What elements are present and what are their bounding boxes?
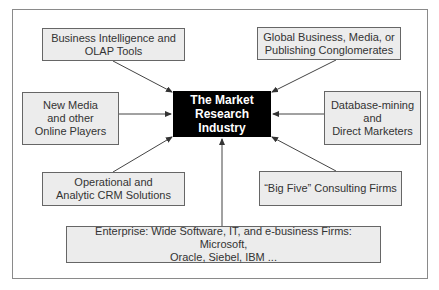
center-label: The Market Research Industry [190,93,253,135]
node-global-conglomerates: Global Business, Media, or Publishing Co… [257,27,401,60]
node-enterprise-software: Enterprise: Wide Software, IT, and e-bus… [66,226,381,263]
arrow-global [272,60,336,92]
node-label: “Big Five” Consulting Firms [264,182,397,195]
node-market-research-industry: The Market Research Industry [173,91,271,137]
node-label: Business Intelligence and OLAP Tools [51,32,176,58]
node-business-intelligence: Business Intelligence and OLAP Tools [42,28,185,61]
node-big-five: “Big Five” Consulting Firms [259,171,402,206]
node-new-media: New Media and other Online Players [22,92,119,145]
node-label: New Media and other Online Players [35,99,107,138]
node-database-mining: Database-mining and Direct Marketers [324,91,421,145]
node-label: Operational and Analytic CRM Solutions [56,176,171,202]
arrow-crm [113,137,172,172]
node-crm-solutions: Operational and Analytic CRM Solutions [42,172,185,206]
node-label: Enterprise: Wide Software, IT, and e-bus… [70,225,377,264]
arrow-bi [113,61,172,92]
node-label: Database-mining and Direct Marketers [331,99,414,138]
node-label: Global Business, Media, or Publishing Co… [263,31,394,57]
